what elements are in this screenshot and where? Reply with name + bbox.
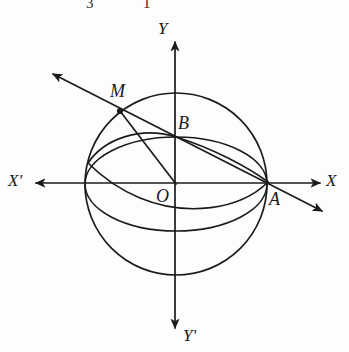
diagram-canvas: 3 1 Y Y — [0, 0, 349, 352]
label-y-negative: Y' — [183, 327, 196, 344]
label-y-positive: Y — [158, 20, 167, 37]
label-point-m: M — [110, 82, 125, 100]
sphere-geometry-drawing — [0, 0, 349, 352]
point-marker-m — [117, 108, 123, 114]
label-x-negative: X' — [8, 172, 22, 189]
label-x-positive: X — [326, 172, 336, 189]
label-point-b: B — [178, 114, 189, 132]
label-point-a: A — [269, 190, 280, 208]
inclined-circle-front-arc — [88, 133, 268, 182]
label-point-o: O — [156, 187, 169, 205]
